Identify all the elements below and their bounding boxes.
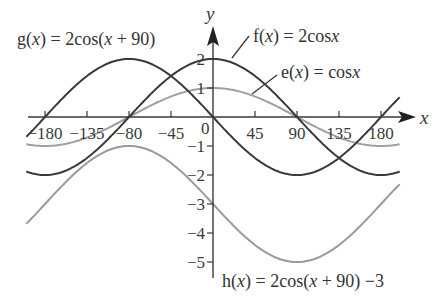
x-tick-label: 135 <box>326 124 352 143</box>
h-label: h(x) = 2cos(x + 90) −3 <box>222 271 384 292</box>
y-tick-label: −4 <box>187 224 206 243</box>
trig-chart: −180−135−80−454590135180 21−1−2−3−4−5 x … <box>0 0 434 301</box>
y-axis-label: y <box>204 3 215 24</box>
f-leader-line <box>232 36 249 58</box>
y-ticks: 21−1−2−3−4−5 <box>187 50 213 272</box>
x-axis-label: x <box>419 107 429 128</box>
y-tick-label: −5 <box>187 253 205 272</box>
e-label: e(x) = cosx <box>281 62 360 83</box>
x-tick-label: −80 <box>116 124 143 143</box>
x-tick-label: −180 <box>27 124 62 143</box>
f-label: f(x) = 2cosx <box>253 26 339 47</box>
y-tick-label: −2 <box>187 166 205 185</box>
x-tick-label: −45 <box>158 124 185 143</box>
y-tick-label: −3 <box>187 195 205 214</box>
x-tick-label: 90 <box>288 124 305 143</box>
x-tick-label: 180 <box>368 124 394 143</box>
origin-label: 0 <box>201 119 210 138</box>
x-tick-label: 45 <box>246 124 263 143</box>
g-label: g(x) = 2cos(x + 90) <box>17 29 155 50</box>
y-tick-label: 2 <box>197 50 206 69</box>
y-tick-label: 1 <box>197 79 206 98</box>
x-tick-label: −135 <box>69 124 104 143</box>
y-tick-label: −1 <box>187 137 205 156</box>
